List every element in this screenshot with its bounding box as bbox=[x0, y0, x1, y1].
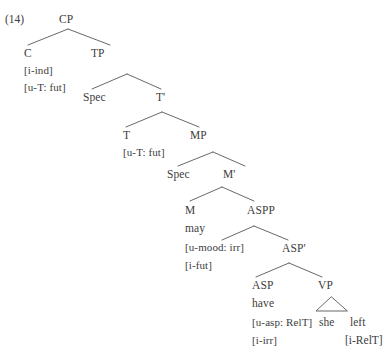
branch-mbar-aspp bbox=[222, 187, 254, 201]
node-asp-bar: ASP' bbox=[282, 242, 306, 255]
node-m: M may [u-mood: irr] [i-fut] bbox=[185, 204, 244, 272]
branch-tbar-mp bbox=[162, 112, 199, 127]
node-mp-spec: Spec bbox=[167, 168, 190, 181]
node-m-feature-1: [i-fut] bbox=[185, 259, 244, 272]
node-c-feature-1: [u-T: fut] bbox=[24, 81, 66, 94]
node-tp: TP bbox=[91, 47, 105, 60]
node-asp-feature-1: [i-irr] bbox=[252, 334, 312, 347]
node-asp: ASP have [u-asp: RelT] [i-irr] bbox=[252, 279, 312, 347]
node-vp-label: VP bbox=[318, 279, 333, 292]
node-m-feature-0: [u-mood: irr] bbox=[185, 241, 244, 254]
node-aspp-label: ASPP bbox=[247, 204, 275, 217]
node-cp-label: CP bbox=[59, 13, 73, 26]
terminal-left: left bbox=[350, 316, 365, 328]
branch-aspbar-asp bbox=[256, 263, 289, 277]
branch-tbar-t bbox=[126, 112, 162, 127]
node-m-bar-label: M' bbox=[223, 168, 236, 181]
node-t-feature-0: [u-T: fut] bbox=[123, 146, 165, 159]
example-number: (14) bbox=[5, 13, 24, 25]
branch-cp-tp bbox=[68, 29, 110, 45]
node-mp-spec-label: Spec bbox=[167, 168, 190, 181]
branch-cp-c bbox=[28, 29, 68, 45]
node-mp: MP bbox=[190, 129, 207, 142]
node-m-bar: M' bbox=[223, 168, 236, 181]
syntax-tree-figure: (14) CP bbox=[0, 0, 389, 361]
node-tp-label: TP bbox=[91, 47, 105, 60]
node-asp-word: have bbox=[252, 297, 312, 310]
node-vp: VP bbox=[318, 279, 333, 292]
terminal-left-feature: [i-RelT] bbox=[345, 334, 383, 346]
vp-triangle-icon bbox=[316, 297, 347, 311]
node-c-feature-0: [i-ind] bbox=[24, 64, 66, 77]
node-asp-bar-label: ASP' bbox=[282, 242, 306, 255]
node-cp: CP bbox=[59, 13, 73, 26]
node-asp-feature-0: [u-asp: RelT] bbox=[252, 316, 312, 329]
node-aspp: ASPP bbox=[247, 204, 275, 217]
branch-mp-spec bbox=[178, 152, 213, 166]
node-mp-label: MP bbox=[190, 129, 207, 142]
node-c-label: C bbox=[24, 47, 66, 60]
node-t-label: T bbox=[123, 129, 165, 142]
branch-tp-tbar bbox=[127, 74, 161, 89]
node-asp-label: ASP bbox=[252, 279, 312, 292]
node-t-bar-label: T' bbox=[156, 91, 165, 104]
branch-aspp-aspbar bbox=[254, 226, 288, 240]
terminal-she: she bbox=[319, 316, 334, 328]
node-tp-spec: Spec bbox=[83, 91, 106, 104]
node-t: T [u-T: fut] bbox=[123, 129, 165, 159]
branch-tp-spec bbox=[92, 74, 127, 89]
node-m-word: may bbox=[185, 222, 244, 235]
node-tp-spec-label: Spec bbox=[83, 91, 106, 104]
branch-mp-mbar bbox=[213, 152, 245, 166]
branch-mbar-m bbox=[190, 187, 222, 201]
node-m-label: M bbox=[185, 204, 244, 217]
branch-aspbar-vp bbox=[289, 263, 322, 277]
node-c: C [i-ind] [u-T: fut] bbox=[24, 47, 66, 94]
node-t-bar: T' bbox=[156, 91, 165, 104]
